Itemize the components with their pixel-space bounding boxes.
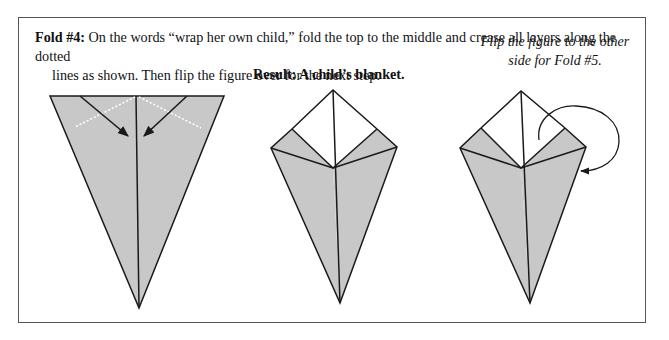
- middle-figure: [271, 90, 397, 303]
- diagram-canvas: [0, 0, 669, 340]
- right-figure: [460, 91, 619, 303]
- left-figure: [50, 96, 224, 308]
